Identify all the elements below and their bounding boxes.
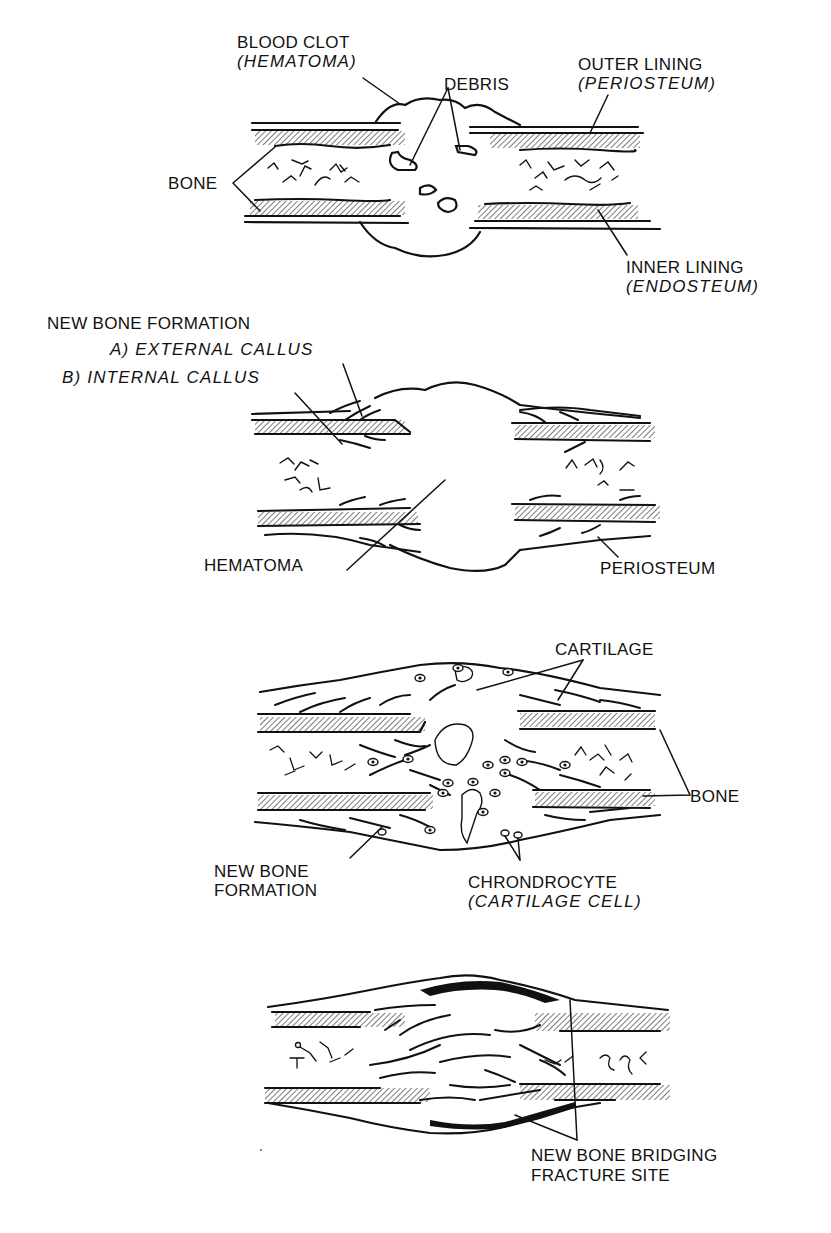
fracture-healing-diagram: BLOOD CLOT (HEMATOMA) DEBRIS OUTER LININ… [0,0,831,1233]
panel-1-hematoma-drawing [233,78,660,256]
label-hematoma: HEMATOMA [204,556,303,575]
label-blood-clot: BLOOD CLOT [237,33,350,52]
label-periosteum-sub: (PERIOSTEUM) [578,74,716,93]
label-external-callus: A) EXTERNAL CALLUS [110,340,314,359]
label-debris: DEBRIS [444,75,509,94]
panel-2-callus-drawing [252,364,660,571]
label-hematoma-sub: (HEMATOMA) [237,52,357,71]
label-bone: BONE [168,174,217,193]
label-inner-lining: INNER LINING [626,258,744,277]
label-new-bone-line1: NEW BONE [214,862,309,881]
label-internal-callus: B) INTERNAL CALLUS [62,368,260,387]
label-new-bone-formation-heading: NEW BONE FORMATION [47,314,250,333]
label-bridging-line2: FRACTURE SITE [531,1166,670,1185]
label-outer-lining: OUTER LINING [578,55,703,74]
label-cartilage: CARTILAGE [555,640,654,659]
label-new-bone-line2: FORMATION [214,881,317,900]
speck [260,1149,262,1151]
label-cartilage-cell-sub: (CARTILAGE CELL) [468,892,642,911]
label-chondrocyte: CHRONDROCYTE [468,873,617,892]
panel-3-cartilage-drawing [255,660,690,860]
label-bridging-line1: NEW BONE BRIDGING [531,1146,717,1165]
label-bone-panel3: BONE [690,787,739,806]
diagram-artwork [0,0,831,1233]
panel-4-bridging-drawing [265,975,670,1140]
label-periosteum: PERIOSTEUM [600,559,715,578]
label-endosteum-sub: (ENDOSTEUM) [626,277,759,296]
